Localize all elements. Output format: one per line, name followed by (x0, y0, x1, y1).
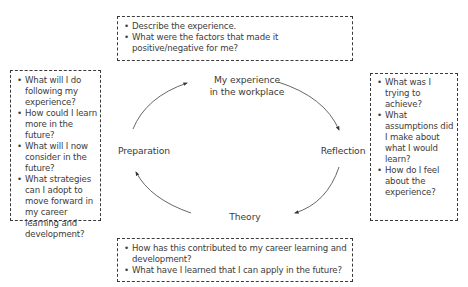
question-item: What assumptions did I make about what I… (376, 110, 454, 165)
stage-preparation: Preparation (108, 145, 180, 157)
stage-experience-line1: My experience (192, 74, 302, 86)
question-item: How could I learn more in the future? (16, 108, 97, 141)
arrow-preparation-to-experience (133, 83, 187, 129)
preparation-questions-box: What will I do following my experience? … (10, 70, 101, 221)
question-list: Describe the experience. What were the f… (123, 21, 348, 54)
stage-reflection: Reflection (316, 145, 370, 157)
experience-questions-box: Describe the experience. What were the f… (117, 16, 353, 61)
question-item: What was I trying to achieve? (376, 77, 454, 110)
question-item: What have I learned that I can apply in … (123, 265, 348, 276)
stage-experience-line2: in the workplace (192, 86, 302, 98)
question-item: What will I now consider in the future? (16, 141, 97, 174)
arrow-reflection-to-theory (295, 167, 339, 213)
reflection-questions-box: What was I trying to achieve? What assum… (370, 73, 458, 221)
question-list: What will I do following my experience? … (16, 75, 97, 240)
question-item: How has this contributed to my career le… (123, 243, 348, 265)
question-item: How do I feel about the experience? (376, 165, 454, 198)
question-item: What strategies can I adopt to move forw… (16, 174, 97, 240)
question-item: What were the factors that made it posit… (123, 32, 348, 54)
question-list: What was I trying to achieve? What assum… (376, 77, 454, 198)
theory-questions-box: How has this contributed to my career le… (117, 238, 353, 282)
question-list: How has this contributed to my career le… (123, 243, 348, 276)
stage-my-experience: My experience in the workplace (192, 74, 302, 98)
question-item: Describe the experience. (123, 21, 348, 32)
stage-theory: Theory (215, 211, 275, 223)
question-item: What will I do following my experience? (16, 75, 97, 108)
arrow-theory-to-preparation (136, 172, 191, 213)
